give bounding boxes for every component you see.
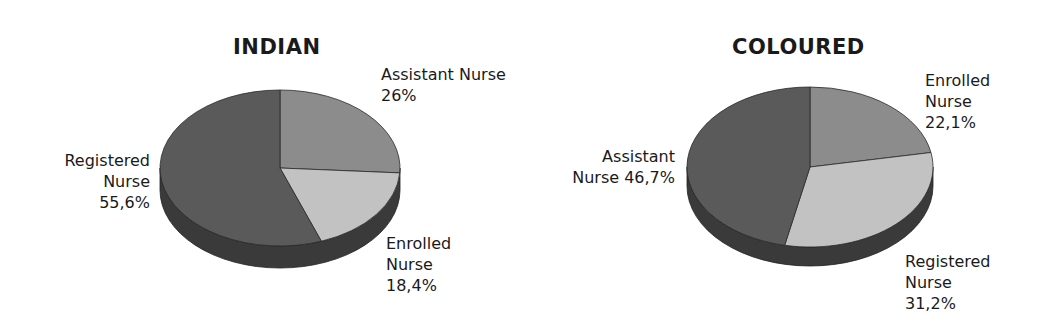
label-value: 18,4% [386,275,451,296]
coloured-enrolled-label: Enrolled Nurse 22,1% [925,70,990,133]
label-line: Assistant [540,146,675,167]
indian-assistant-label: Assistant Nurse 26% [381,64,506,106]
coloured-chart-title: COLOURED [732,35,865,59]
indian-registered-label: Registered Nurse 55,6% [40,150,150,213]
indian-pie-chart: INDIAN Assistant Nurse 26% Registered Nu… [0,0,530,333]
coloured-registered-label: Registered Nurse 31,2% [905,251,991,314]
label-value: 55,6% [40,192,150,213]
label-line: Nurse [386,254,451,275]
label-line: Registered [905,251,991,272]
label-line: Enrolled [925,70,990,91]
label-line: Nurse [925,91,990,112]
coloured-assistant-label: Assistant Nurse 46,7% [540,146,675,188]
indian-chart-title: INDIAN [233,35,320,59]
label-line: Nurse [905,272,991,293]
label-line: Enrolled [386,233,451,254]
label-value: 22,1% [925,112,990,133]
label-line: Assistant Nurse [381,64,506,85]
indian-enrolled-label: Enrolled Nurse 18,4% [386,233,451,296]
label-value: 31,2% [905,293,991,314]
coloured-pie-chart: COLOURED Enrolled Nurse 22,1% Assistant … [530,0,1063,333]
label-value: Nurse 46,7% [540,167,675,188]
label-line: Registered [40,150,150,171]
label-value: 26% [381,85,506,106]
label-line: Nurse [40,171,150,192]
